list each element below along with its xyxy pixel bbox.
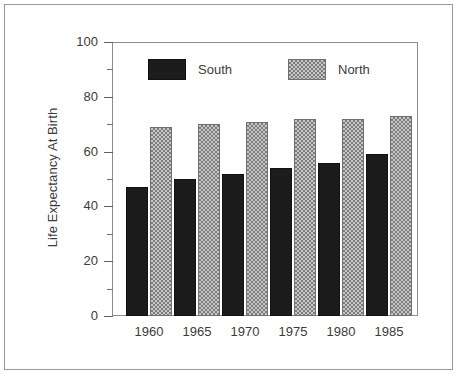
y-tick-0: [104, 316, 113, 317]
y-tick-minor-50: [107, 179, 113, 180]
bar-north-1985[interactable]: [390, 116, 412, 316]
y-tick-100: [104, 42, 113, 43]
y-tick-40: [104, 206, 113, 207]
bar-north-1960[interactable]: [150, 127, 172, 316]
x-label-1985: 1985: [362, 324, 416, 339]
bar-north-1980[interactable]: [342, 119, 364, 316]
x-label-1970: 1970: [218, 324, 272, 339]
chart-legend: South North: [148, 56, 398, 82]
bar-south-1980[interactable]: [318, 163, 340, 316]
x-label-1965: 1965: [170, 324, 224, 339]
bar-chart: Life Expectancy At Birth 100 80 60 40 20…: [0, 0, 461, 378]
x-label-1980: 1980: [314, 324, 368, 339]
legend-entry-north[interactable]: North: [288, 56, 370, 82]
y-tick-minor-90: [107, 69, 113, 70]
y-label-0: 0: [36, 308, 98, 323]
y-label-40: 40: [36, 198, 98, 213]
legend-swatch-north-icon: [288, 59, 326, 80]
y-tick-20: [104, 261, 113, 262]
bar-north-1965[interactable]: [198, 124, 220, 316]
x-label-1975: 1975: [266, 324, 320, 339]
bar-north-1970[interactable]: [246, 122, 268, 317]
y-tick-60: [104, 152, 113, 153]
y-label-60-wrap: 60: [36, 144, 98, 160]
y-label-80: 80: [36, 89, 98, 104]
bar-south-1970[interactable]: [222, 174, 244, 317]
bar-south-1965[interactable]: [174, 179, 196, 316]
x-label-1960: 1960: [122, 324, 176, 339]
y-label-0-wrap: 0: [36, 308, 98, 324]
y-label-80-wrap: 80: [36, 89, 98, 105]
y-tick-80: [104, 97, 113, 98]
y-axis-title: Life Expectancy At Birth: [45, 78, 60, 278]
y-tick-minor-10: [107, 289, 113, 290]
legend-label-south: South: [198, 62, 232, 77]
y-tick-minor-70: [107, 124, 113, 125]
y-label-40-wrap: 40: [36, 198, 98, 214]
y-label-20-wrap: 20: [36, 253, 98, 269]
bar-south-1975[interactable]: [270, 168, 292, 316]
bar-south-1960[interactable]: [126, 187, 148, 316]
legend-entry-south[interactable]: South: [148, 56, 232, 82]
bar-north-1975[interactable]: [294, 119, 316, 316]
y-label-100: 100: [36, 34, 98, 49]
y-tick-minor-30: [107, 234, 113, 235]
y-label-100-wrap: 100: [36, 34, 98, 50]
legend-label-north: North: [338, 62, 370, 77]
legend-swatch-south-icon: [148, 59, 186, 80]
y-label-60: 60: [36, 144, 98, 159]
bar-south-1985[interactable]: [366, 154, 388, 316]
y-label-20: 20: [36, 253, 98, 268]
